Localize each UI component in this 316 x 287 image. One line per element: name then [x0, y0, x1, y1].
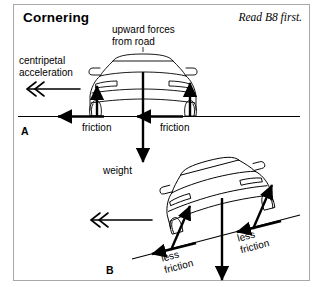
car-front-view-b	[156, 147, 276, 234]
panel-label-a: A	[21, 126, 29, 138]
label-weight: weight	[103, 165, 132, 177]
label-friction-right: friction	[160, 122, 189, 134]
label-upward-forces: upward forces from road	[112, 24, 175, 47]
figure-page: Cornering Read B8 first.	[0, 0, 316, 287]
panel-label-b: B	[106, 265, 114, 277]
upward-force-arrow-b-right	[253, 185, 272, 229]
label-centripetal-acceleration: centripetal acceleration	[19, 55, 73, 78]
upward-force-arrow-b-left	[171, 206, 190, 250]
label-friction-left: friction	[82, 122, 111, 134]
centripetal-acceleration-arrow-a	[27, 82, 80, 96]
centripetal-acceleration-arrow-b	[91, 213, 152, 227]
